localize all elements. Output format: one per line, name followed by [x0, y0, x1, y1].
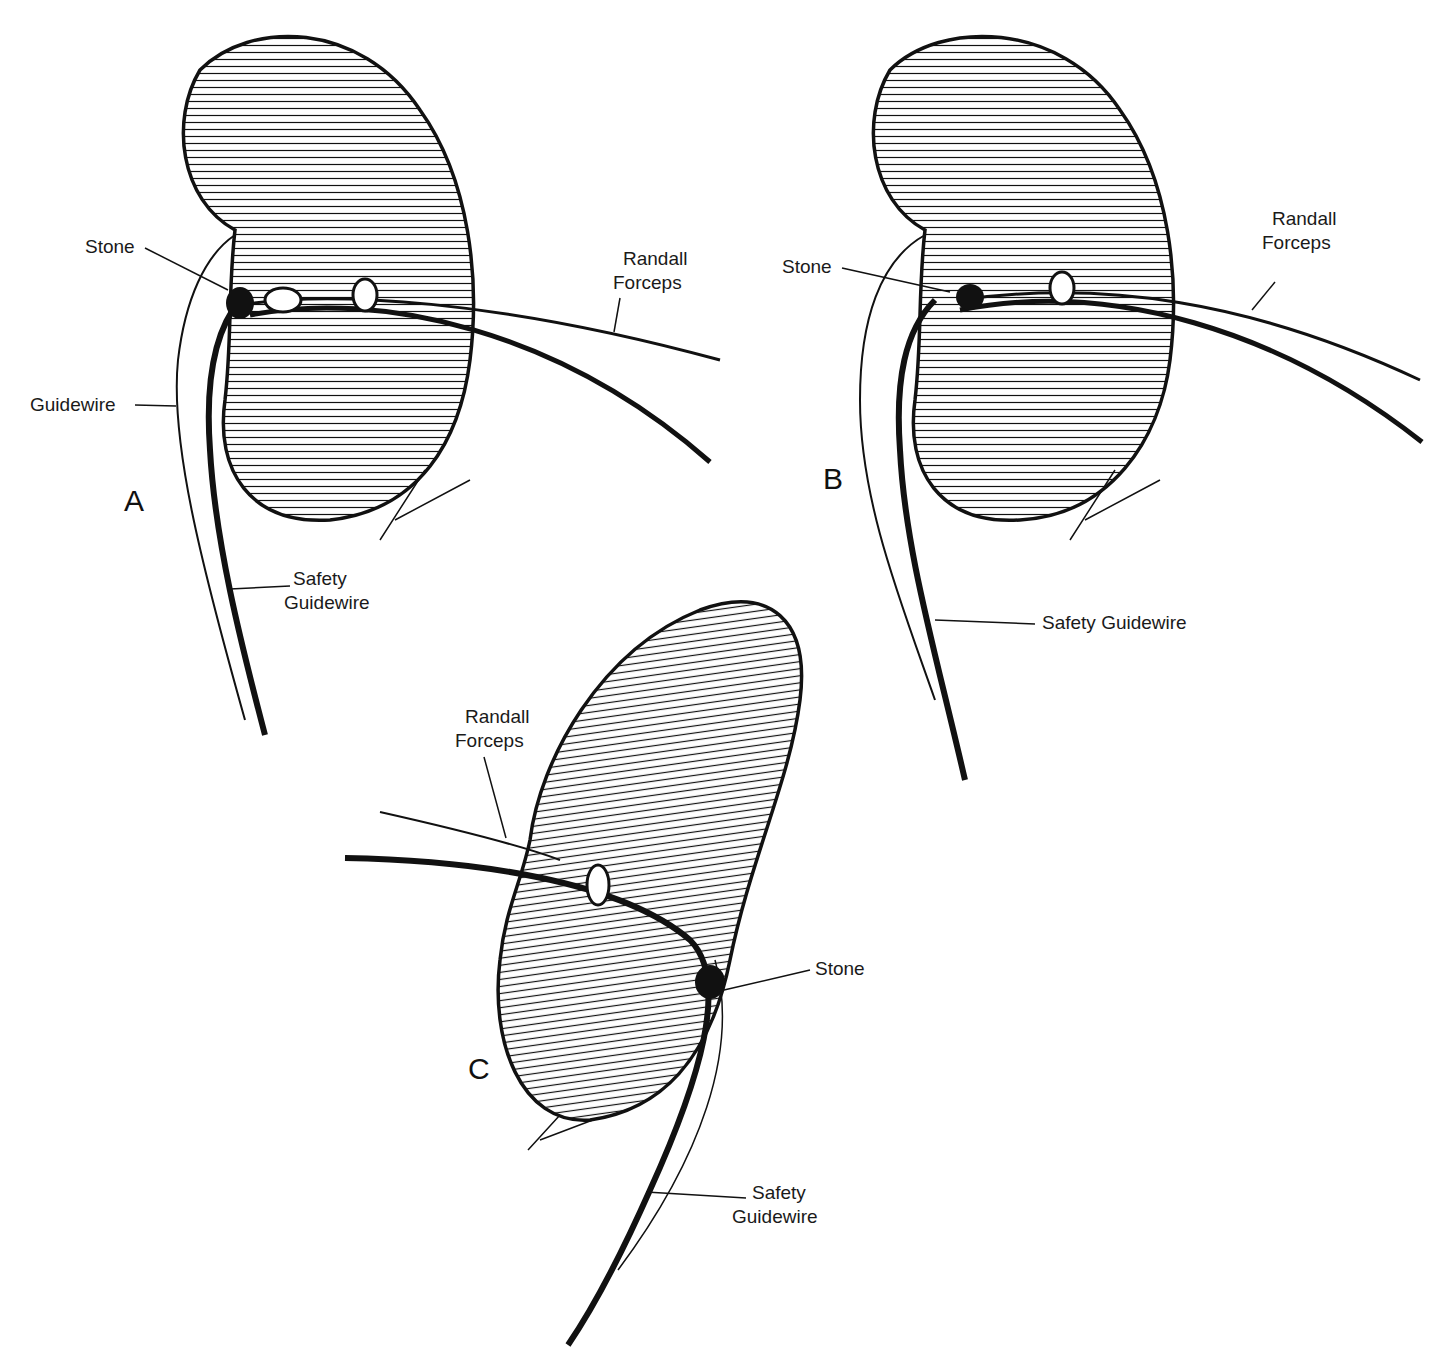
label-stone-c: Stone: [815, 958, 865, 980]
label-forceps-a-line1: Randall: [623, 248, 687, 270]
label-forceps-b-line2: Forceps: [1262, 232, 1331, 254]
label-forceps-b-line1: Randall: [1272, 208, 1336, 230]
label-safety-a-line1: Safety: [293, 568, 347, 590]
label-safety-a-line2: Guidewire: [284, 592, 370, 614]
forceps-leader-b: [1252, 282, 1275, 310]
label-safety-b: Safety Guidewire: [1042, 612, 1187, 634]
safety-leader-c: [646, 1192, 746, 1198]
panel-a-kidney: [177, 36, 720, 735]
label-stone-b: Stone: [782, 256, 832, 278]
guidewire-leader-a: [135, 405, 176, 406]
label-forceps-c-line1: Randall: [465, 706, 529, 728]
label-forceps-c-line2: Forceps: [455, 730, 524, 752]
illustration-canvas: [0, 0, 1446, 1364]
stone-leader-c: [724, 970, 810, 990]
safety-leader-a: [230, 586, 290, 589]
label-forceps-a-line2: Forceps: [613, 272, 682, 294]
panel-letter-c: C: [468, 1052, 490, 1086]
panel-b-kidney: [860, 36, 1422, 780]
label-stone-a: Stone: [85, 236, 135, 258]
safety-leader-b: [935, 620, 1035, 624]
forceps-leader-c: [484, 757, 506, 838]
panel-letter-a: A: [124, 484, 144, 518]
panel-letter-b: B: [823, 462, 843, 496]
forceps-leader-a: [614, 298, 620, 332]
label-safety-c-line2: Guidewire: [732, 1206, 818, 1228]
label-guidewire-a: Guidewire: [30, 394, 116, 416]
panel-c-kidney: [345, 602, 802, 1345]
label-safety-c-line1: Safety: [752, 1182, 806, 1204]
